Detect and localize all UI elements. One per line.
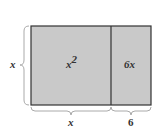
left-brace [20, 26, 29, 105]
bottom-left-label: x [67, 116, 74, 128]
area-model-diagram: x x2 6x x 6 [0, 0, 160, 133]
left-side-label: x [9, 58, 16, 70]
bottom-right-label: 6 [128, 116, 134, 128]
bottom-right-brace [111, 107, 151, 115]
strip-area-label: 6x [124, 58, 136, 70]
bottom-left-brace [31, 107, 111, 115]
